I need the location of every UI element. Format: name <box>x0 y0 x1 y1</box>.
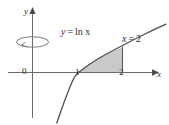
arrow-up-icon <box>29 7 35 14</box>
x-tick-label-2: 2 <box>119 68 124 77</box>
curve-equation-relation: = <box>67 26 73 37</box>
curve-equation-rhs: ln x <box>75 26 90 37</box>
vertical-line-label: x=2 <box>122 34 141 44</box>
vertical-line-rhs: 2 <box>136 33 141 44</box>
x-axis-label: x <box>157 70 161 79</box>
origin-label: 0 <box>22 67 27 76</box>
shaded-region-under-curve <box>79 48 123 73</box>
vertical-line-relation: = <box>128 33 134 44</box>
vertical-line-lhs: x <box>122 33 126 44</box>
figure-container: y x 0 1 2 y=ln x x=2 <box>0 0 169 125</box>
ln-curve <box>57 24 166 123</box>
curve-equation-label: y=ln x <box>61 27 90 37</box>
curve-equation-lhs: y <box>61 26 65 37</box>
figure-canvas <box>0 0 169 125</box>
x-tick-label-1: 1 <box>75 68 80 77</box>
y-axis-label: y <box>24 7 28 16</box>
